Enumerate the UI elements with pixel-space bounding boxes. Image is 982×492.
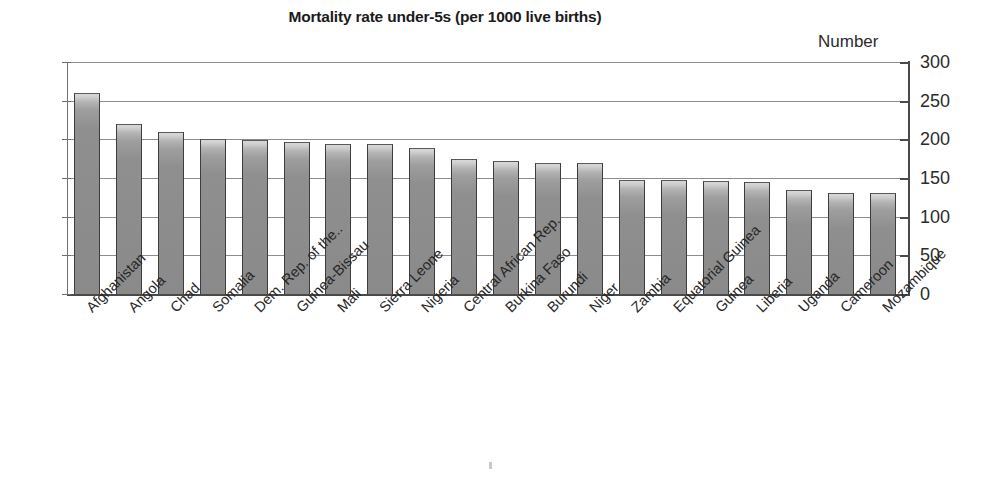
y-tick-right-300: [900, 62, 910, 64]
y-tick-label-0: 0: [920, 285, 930, 303]
plot-area: [68, 62, 908, 294]
y-tick-label-250: 250: [920, 92, 950, 110]
gridline-50: [68, 255, 908, 256]
y-tick-left-50: [62, 255, 71, 256]
bar[interactable]: [619, 180, 645, 294]
y-tick-left-0: [62, 294, 71, 295]
y-tick-label-100: 100: [920, 208, 950, 226]
y-tick-left-150: [62, 178, 71, 179]
bar[interactable]: [451, 159, 477, 294]
y-tick-right-100: [900, 217, 910, 219]
y-tick-label-300: 300: [920, 53, 950, 71]
y-tick-right-150: [900, 178, 910, 180]
y-tick-label-150: 150: [920, 169, 950, 187]
chart-title: Mortality rate under-5s (per 1000 live b…: [0, 8, 890, 26]
gridline-150: [68, 178, 908, 179]
bar[interactable]: [367, 144, 393, 294]
chart-figure: Mortality rate under-5s (per 1000 live b…: [0, 0, 982, 492]
y-tick-left-100: [62, 217, 71, 218]
gridline-200: [68, 139, 908, 140]
y-axis-unit-label: Number: [818, 32, 878, 52]
bar[interactable]: [200, 139, 226, 294]
y-tick-left-250: [62, 101, 71, 102]
bar[interactable]: [74, 93, 100, 294]
gridline-250: [68, 101, 908, 102]
gridline-100: [68, 217, 908, 218]
y-tick-right-200: [900, 139, 910, 141]
gridline-300: [68, 62, 908, 63]
y-tick-label-200: 200: [920, 130, 950, 148]
bar[interactable]: [158, 132, 184, 294]
y-tick-right-250: [900, 101, 910, 103]
y-tick-left-300: [62, 62, 71, 63]
scan-artifact: [489, 462, 492, 469]
y-tick-right-50: [900, 255, 910, 257]
y-tick-left-200: [62, 139, 71, 140]
